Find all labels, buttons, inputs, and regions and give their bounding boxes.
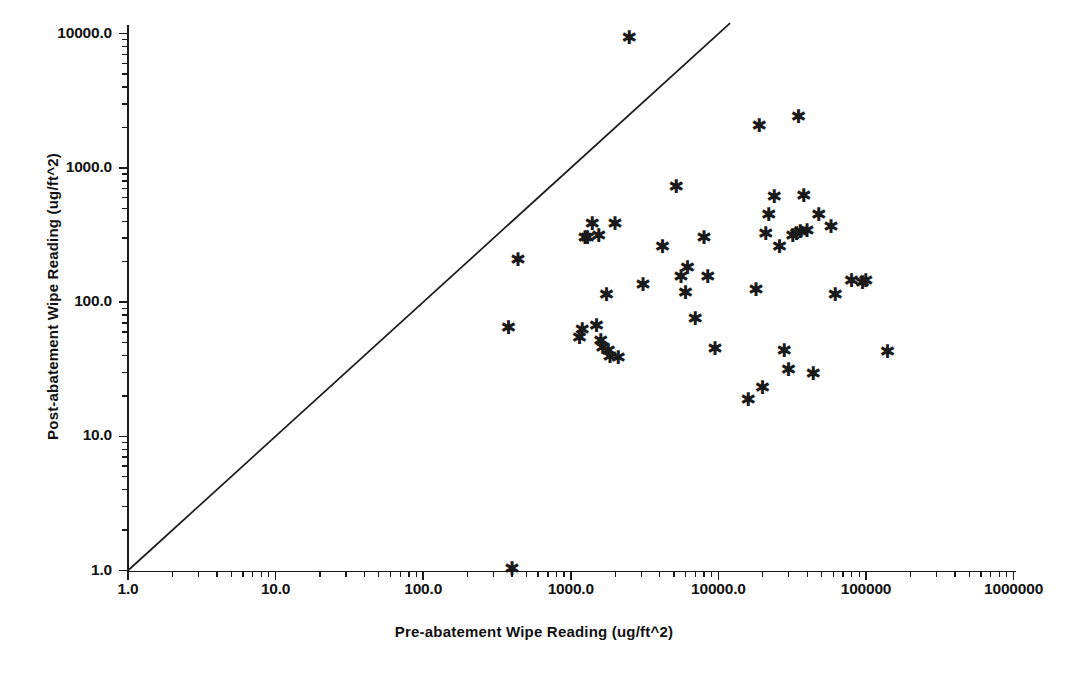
x-axis-title: Pre-abatement Wipe Reading (ug/ft^2) (0, 623, 1068, 640)
data-point-marker: ✱ (700, 267, 716, 283)
y-tick-minor (122, 46, 128, 47)
x-tick-major (422, 571, 424, 580)
x-tick-minor (364, 571, 365, 577)
data-point-marker: ✱ (781, 360, 797, 376)
data-point-marker: ✱ (635, 275, 651, 291)
x-tick-minor (319, 571, 320, 577)
x-tick-label: 100.0 (363, 580, 483, 598)
x-tick-minor (990, 571, 991, 577)
x-tick-minor (216, 571, 217, 577)
y-tick-minor (122, 489, 128, 490)
x-tick-minor (493, 571, 494, 577)
x-tick-minor (416, 571, 417, 577)
x-tick-minor (685, 571, 686, 577)
data-point-marker: ✱ (796, 186, 812, 202)
x-tick-minor (467, 571, 468, 577)
data-point-marker: ✱ (823, 217, 839, 233)
y-tick-major (119, 33, 128, 35)
x-tick-minor (231, 571, 232, 577)
y-tick-minor (122, 197, 128, 198)
x-tick-minor (788, 571, 789, 577)
x-tick-minor (833, 571, 834, 577)
y-tick-minor (122, 208, 128, 209)
data-point-marker: ✱ (776, 341, 792, 357)
data-point-marker: ✱ (680, 258, 696, 274)
data-point-marker: ✱ (827, 285, 843, 301)
x-tick-label: 1.0 (68, 580, 188, 598)
x-tick-major (275, 571, 277, 580)
data-point-marker: ✱ (669, 177, 685, 193)
data-point-marker: ✱ (591, 226, 607, 242)
x-tick-minor (563, 571, 564, 577)
y-tick-minor (122, 103, 128, 104)
x-tick-minor (821, 571, 822, 577)
data-point-marker: ✱ (761, 205, 777, 221)
x-tick-minor (378, 571, 379, 577)
y-tick-minor (122, 322, 128, 323)
data-point-marker: ✱ (880, 342, 896, 358)
data-point-marker: ✱ (696, 228, 712, 244)
x-tick-minor (526, 571, 527, 577)
x-tick-minor (711, 571, 712, 577)
y-tick-minor (122, 237, 128, 238)
x-tick-minor (954, 571, 955, 577)
y-tick-major (119, 301, 128, 303)
x-tick-minor (261, 571, 262, 577)
x-tick-minor (807, 571, 808, 577)
y-tick-minor (122, 331, 128, 332)
data-point-marker: ✱ (707, 339, 723, 355)
y-axis-title: Post-abatement Wipe Reading (ug/ft^2) (44, 17, 61, 577)
x-tick-major (127, 571, 129, 580)
x-tick-minor (400, 571, 401, 577)
y-tick-major (119, 436, 128, 438)
x-tick-minor (969, 571, 970, 577)
y-tick-minor (122, 476, 128, 477)
x-tick-minor (695, 571, 696, 577)
x-tick-minor (762, 571, 763, 577)
x-tick-major (865, 571, 867, 580)
y-tick-minor (122, 73, 128, 74)
x-tick-label: 10.0 (216, 580, 336, 598)
x-tick-label: 10000.0 (658, 580, 778, 598)
data-point-marker: ✱ (610, 348, 626, 364)
y-tick-minor (122, 529, 128, 530)
x-tick-minor (859, 571, 860, 577)
identity-reference-line (0, 0, 1068, 675)
data-point-marker: ✱ (607, 214, 623, 230)
data-point-marker: ✱ (688, 309, 704, 325)
x-tick-major (718, 571, 720, 580)
data-point-marker: ✱ (767, 187, 783, 203)
x-tick-minor (842, 571, 843, 577)
y-tick-minor (122, 342, 128, 343)
scatter-plot-figure: 1.010.0100.01000.010000.0 1.010.0100.010… (0, 0, 1068, 675)
x-tick-minor (615, 571, 616, 577)
data-point-marker: ✱ (510, 250, 526, 266)
y-tick-minor (122, 188, 128, 189)
x-tick-minor (703, 571, 704, 577)
x-tick-minor (547, 571, 548, 577)
y-tick-minor (122, 39, 128, 40)
y-tick-major (119, 167, 128, 169)
data-point-marker: ✱ (791, 107, 807, 123)
y-tick-minor (122, 442, 128, 443)
data-point-marker: ✱ (622, 28, 638, 44)
data-point-marker: ✱ (858, 271, 874, 287)
y-tick-minor (122, 127, 128, 128)
y-tick-minor (122, 395, 128, 396)
x-tick-minor (936, 571, 937, 577)
x-tick-minor (268, 571, 269, 577)
y-tick-minor (122, 261, 128, 262)
x-tick-minor (1006, 571, 1007, 577)
data-point-marker: ✱ (755, 378, 771, 394)
x-tick-minor (537, 571, 538, 577)
y-tick-minor (122, 355, 128, 356)
data-point-marker: ✱ (504, 559, 520, 575)
x-tick-minor (252, 571, 253, 577)
y-tick-minor (122, 449, 128, 450)
y-tick-minor (122, 465, 128, 466)
x-tick-major (570, 571, 572, 580)
x-tick-minor (641, 571, 642, 577)
y-tick-minor (122, 173, 128, 174)
y-tick-minor (122, 372, 128, 373)
x-tick-major (1013, 571, 1015, 580)
